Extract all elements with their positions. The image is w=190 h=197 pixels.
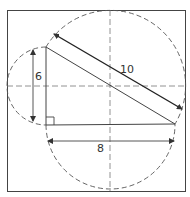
pythagorean-diagram: 6 8 10 (0, 0, 190, 197)
right-angle-marker (46, 117, 54, 125)
hypotenuse-semicircle (46, 10, 186, 124)
label-8: 8 (97, 142, 104, 155)
base-semicircle (46, 124, 175, 189)
label-6: 6 (35, 70, 42, 83)
frame-border (8, 11, 186, 192)
label-10: 10 (120, 63, 134, 76)
dimension-line-10 (54, 34, 182, 109)
